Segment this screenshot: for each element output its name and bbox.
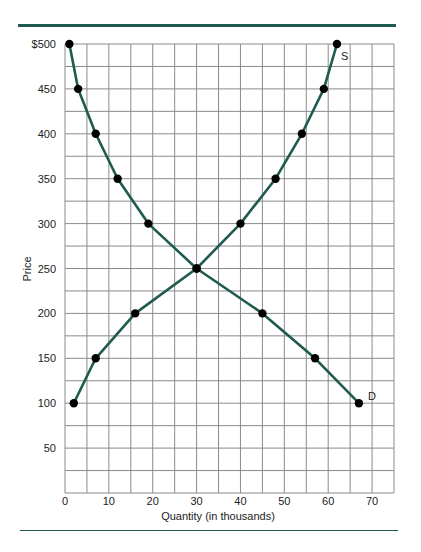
data-point-marker bbox=[236, 219, 244, 227]
y-tick-label: 250 bbox=[38, 263, 56, 275]
y-axis-title: Price bbox=[21, 256, 33, 281]
series-label-d: D bbox=[368, 390, 376, 402]
y-tick-label: 450 bbox=[38, 83, 56, 95]
data-point-marker bbox=[333, 40, 341, 48]
data-point-marker bbox=[92, 130, 100, 138]
grid bbox=[65, 44, 394, 493]
x-tick-label: 20 bbox=[147, 495, 159, 507]
data-point-marker bbox=[74, 85, 82, 93]
data-point-marker bbox=[65, 40, 73, 48]
x-tick-label: 60 bbox=[322, 495, 334, 507]
y-tick-label: 400 bbox=[38, 128, 56, 140]
data-point-marker bbox=[144, 219, 152, 227]
x-axis-ticks: 010203040506070 bbox=[62, 495, 378, 507]
data-point-marker bbox=[320, 85, 328, 93]
supply-demand-chart: 50100150200250300350400450$500 010203040… bbox=[0, 0, 421, 552]
series-label-s: S bbox=[341, 50, 348, 62]
y-tick-label: 100 bbox=[38, 397, 56, 409]
y-tick-label: 350 bbox=[38, 173, 56, 185]
data-point-marker bbox=[298, 130, 306, 138]
y-tick-label: 150 bbox=[38, 352, 56, 364]
x-tick-label: 40 bbox=[234, 495, 246, 507]
y-tick-label: 300 bbox=[38, 218, 56, 230]
x-tick-label: 70 bbox=[366, 495, 378, 507]
y-tick-label: 200 bbox=[38, 307, 56, 319]
data-point-marker bbox=[131, 309, 139, 317]
x-axis-title: Quantity (in thousands) bbox=[161, 510, 275, 522]
data-point-marker bbox=[271, 175, 279, 183]
data-point-marker bbox=[258, 309, 266, 317]
y-tick-label: $500 bbox=[32, 38, 56, 50]
data-point-marker bbox=[311, 354, 319, 362]
x-tick-label: 50 bbox=[278, 495, 290, 507]
data-point-marker bbox=[70, 399, 78, 407]
x-tick-label: 30 bbox=[190, 495, 202, 507]
data-point-marker bbox=[92, 354, 100, 362]
data-point-marker bbox=[192, 264, 200, 272]
data-point-marker bbox=[355, 399, 363, 407]
y-tick-label: 50 bbox=[44, 442, 56, 454]
x-tick-label: 10 bbox=[103, 495, 115, 507]
data-point-marker bbox=[113, 175, 121, 183]
y-axis-ticks: 50100150200250300350400450$500 bbox=[32, 38, 56, 454]
x-tick-label: 0 bbox=[62, 495, 68, 507]
